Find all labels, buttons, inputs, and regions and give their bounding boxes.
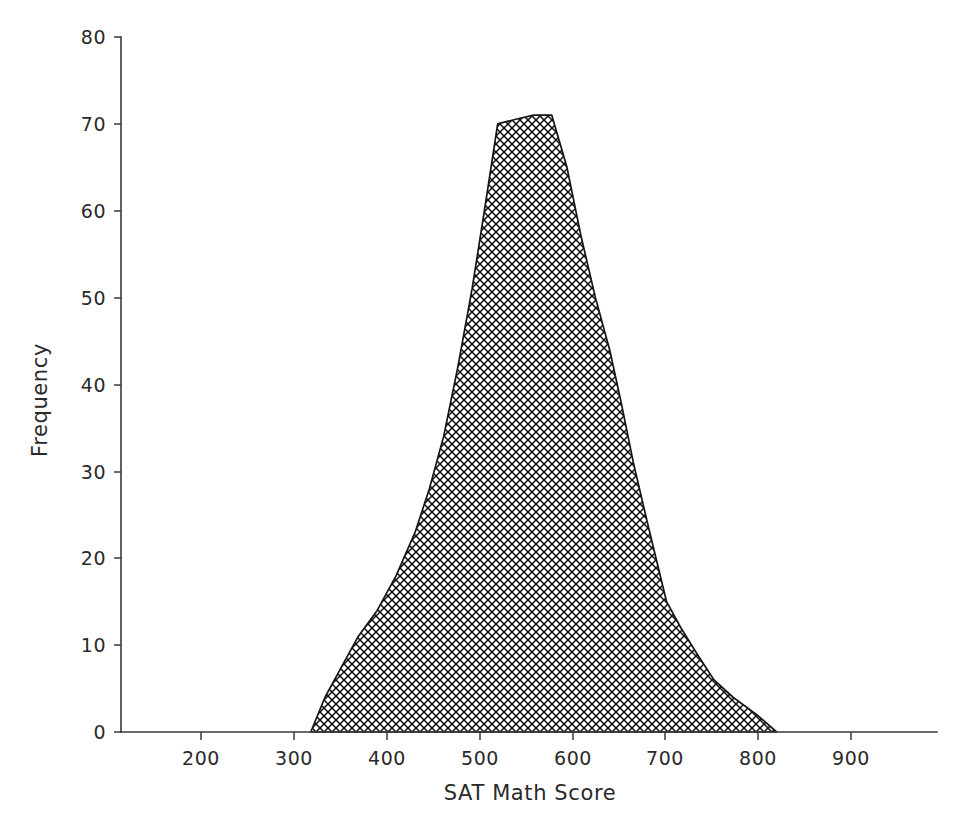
y-tick-label-0: 0 [93, 721, 106, 743]
y-tick-label-30: 30 [81, 461, 106, 483]
y-tick-label-60: 60 [81, 200, 106, 222]
x-tick-label-800: 800 [739, 747, 777, 769]
y-tick-label-20: 20 [81, 547, 106, 569]
chart-canvas: 0 10 20 30 40 50 60 70 80 200 300 400 50… [0, 0, 967, 819]
x-axis-title: SAT Math Score [444, 781, 616, 805]
x-tick-label-400: 400 [368, 747, 406, 769]
series-sat-math-distribution [311, 115, 777, 732]
y-tick-label-40: 40 [81, 374, 106, 396]
distribution-area [311, 115, 777, 732]
y-tick-label-50: 50 [81, 287, 106, 309]
x-tick-label-700: 700 [646, 747, 684, 769]
x-axis-ticks: 200 300 400 500 600 700 800 900 [182, 732, 870, 769]
y-axis-title: Frequency [28, 343, 52, 457]
y-tick-label-80: 80 [81, 26, 106, 48]
x-tick-label-500: 500 [461, 747, 499, 769]
y-tick-label-70: 70 [81, 113, 106, 135]
x-tick-label-300: 300 [275, 747, 313, 769]
x-tick-label-200: 200 [182, 747, 220, 769]
y-axis-ticks: 0 10 20 30 40 50 60 70 80 [81, 26, 121, 743]
chart-figure: 0 10 20 30 40 50 60 70 80 200 300 400 50… [0, 0, 967, 819]
x-tick-label-900: 900 [832, 747, 870, 769]
y-tick-label-10: 10 [81, 634, 106, 656]
x-tick-label-600: 600 [554, 747, 592, 769]
